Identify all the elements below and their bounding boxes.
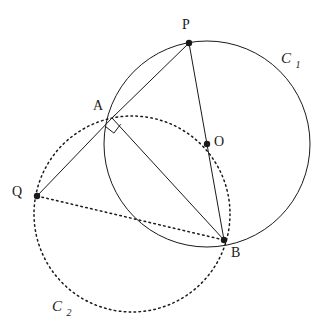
segment-qb xyxy=(37,196,224,240)
point-dot-b xyxy=(221,237,227,243)
circle-label-c2-subscript: 2 xyxy=(67,307,72,318)
point-label-a: A xyxy=(93,98,104,113)
right-angle-mark-at-a xyxy=(105,124,120,133)
circle-label-c1: C xyxy=(281,50,292,66)
point-label-b: B xyxy=(231,245,240,260)
point-label-o: O xyxy=(214,134,224,149)
point-label-p: P xyxy=(182,17,190,32)
circle-label-c1-subscript: 1 xyxy=(296,59,301,70)
geometry-figure: P A O B Q C 1 C 2 xyxy=(0,0,325,330)
point-dot-q xyxy=(34,193,40,199)
circle-label-c2: C xyxy=(52,298,63,314)
segment-pa xyxy=(112,43,189,118)
geometry-canvas: P A O B Q C 1 C 2 xyxy=(0,0,325,330)
point-label-q: Q xyxy=(12,184,22,199)
point-dot-o xyxy=(204,141,210,147)
segment-ab xyxy=(112,118,224,240)
point-dot-p xyxy=(186,40,192,46)
segment-qa xyxy=(37,114,115,196)
